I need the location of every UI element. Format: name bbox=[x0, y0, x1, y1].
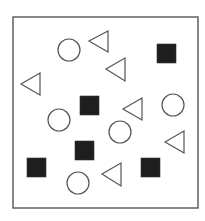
filled-square-shape bbox=[141, 158, 160, 177]
shape-diagram bbox=[0, 0, 205, 221]
filled-square-shape bbox=[75, 141, 94, 160]
figure-background bbox=[0, 0, 205, 221]
filled-square-shape bbox=[27, 158, 46, 177]
filled-square-shape bbox=[157, 44, 176, 63]
filled-square-shape bbox=[80, 96, 99, 115]
